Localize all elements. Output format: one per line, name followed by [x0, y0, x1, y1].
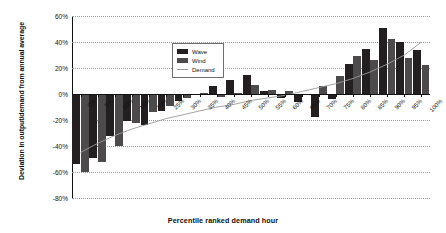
x-axis-tick: [285, 94, 286, 97]
x-axis-tick: [149, 94, 150, 97]
legend-label: Demand: [192, 67, 215, 73]
y-axis-tick-label: -40%: [53, 143, 68, 150]
x-axis-tick: [115, 94, 116, 97]
legend-swatch-wind: [177, 58, 188, 63]
chart-figure: Deviation in output/demand from annual a…: [0, 0, 446, 233]
y-axis-tick-label: 0%: [59, 91, 68, 98]
y-axis-tick-label: 60%: [55, 13, 68, 20]
x-axis-tick: [353, 94, 354, 97]
legend-item: Demand: [177, 65, 219, 74]
y-axis-tick-label: -20%: [53, 117, 68, 124]
y-axis-tick-label: 40%: [55, 39, 68, 46]
x-axis-tick: [217, 94, 218, 97]
x-axis-tick: [200, 94, 201, 97]
y-axis-tick-label: -80%: [53, 195, 68, 202]
y-axis-tick-label: -60%: [53, 169, 68, 176]
x-axis-tick: [81, 94, 82, 97]
gridline: [72, 198, 430, 199]
legend-item: Wave: [177, 47, 219, 56]
x-axis-tick: [404, 94, 405, 97]
x-axis-tick: [183, 94, 184, 97]
legend-label: Wind: [192, 58, 206, 64]
x-axis-tick: [302, 94, 303, 97]
legend-item: Wind: [177, 56, 219, 65]
x-axis-tick: [234, 94, 235, 97]
y-axis-tick-label: 20%: [55, 65, 68, 72]
demand-polyline: [81, 42, 422, 153]
x-axis-title: Percentile ranked demand hour: [0, 216, 446, 225]
x-axis-tick: [132, 94, 133, 97]
x-axis-tick-label: 100%: [429, 98, 444, 113]
legend-label: Wave: [192, 49, 207, 55]
x-axis-tick: [268, 94, 269, 97]
y-axis-title: Deviation in output/demand from annual a…: [18, 16, 32, 186]
x-axis-tick: [319, 94, 320, 97]
legend-swatch-demand: [177, 69, 188, 70]
x-axis-tick: [98, 94, 99, 97]
plot-area: 60%40%20%0%-20%-40%-60%-80% 0%5%10%15%20…: [72, 16, 430, 198]
chart-legend: WaveWindDemand: [172, 43, 224, 78]
legend-swatch-wave: [177, 49, 188, 54]
x-axis-tick: [370, 94, 371, 97]
x-axis-tick: [251, 94, 252, 97]
x-axis-tick: [387, 94, 388, 97]
x-axis-tick: [336, 94, 337, 97]
x-axis-tick: [166, 94, 167, 97]
x-axis-tick: [421, 94, 422, 97]
